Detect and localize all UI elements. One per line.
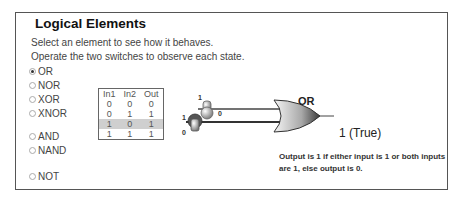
switch-in1-bottom-label: 0	[218, 110, 222, 117]
switch-in2-bottom-label: 0	[182, 129, 186, 136]
switch-in2[interactable]	[185, 113, 205, 135]
gate-explanation: Output is 1 if either input is 1 or both…	[279, 151, 459, 175]
switch-in2-top-label: 1	[182, 114, 186, 121]
logical-elements-panel: Logical Elements Select an element to se…	[15, 12, 448, 190]
gate-name: OR	[298, 95, 315, 107]
output-value: 1 (True)	[339, 126, 381, 140]
switch-in1-top-label: 1	[198, 94, 202, 101]
